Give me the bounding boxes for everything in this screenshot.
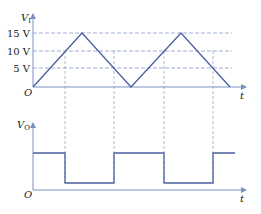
- top-t-label: t: [240, 90, 245, 101]
- tick-5v: 5 V: [13, 63, 31, 74]
- bottom-origin-label: O: [24, 189, 32, 200]
- tick-10v: 10 V: [7, 46, 31, 57]
- vi-label: VI: [21, 12, 31, 25]
- top-graph: VI 15 V 10 V 5 V O t: [7, 12, 246, 101]
- triangle-waveform: [33, 33, 230, 87]
- bottom-graph: VO O t: [17, 119, 246, 204]
- triangle-to-square-waveform-diagram: VI 15 V 10 V 5 V O t VO O t: [0, 0, 261, 214]
- bottom-t-label: t: [240, 193, 245, 204]
- tick-15v: 15 V: [7, 28, 31, 39]
- top-origin-label: O: [24, 87, 32, 98]
- projection-lines: [65, 51, 213, 183]
- vo-label: VO: [17, 119, 30, 132]
- square-waveform: [33, 153, 235, 183]
- reference-lines: [33, 33, 232, 68]
